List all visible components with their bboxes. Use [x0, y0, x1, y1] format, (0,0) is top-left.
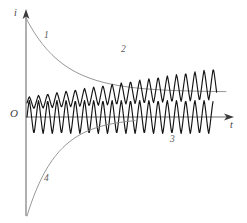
waveform-plot-svg	[0, 0, 247, 223]
curve-4-label: 4	[44, 174, 49, 184]
curve-3-label: 3	[170, 135, 175, 145]
curve-4-rising-envelope	[27, 121, 135, 216]
x-axis-label: t	[230, 120, 233, 130]
waveform-figure: i t O 1 2 3 4	[0, 0, 247, 223]
y-axis-label: i	[14, 8, 17, 18]
curve-2-label: 2	[121, 45, 126, 55]
curve-1-label: 1	[44, 31, 49, 41]
origin-label: O	[10, 108, 18, 119]
